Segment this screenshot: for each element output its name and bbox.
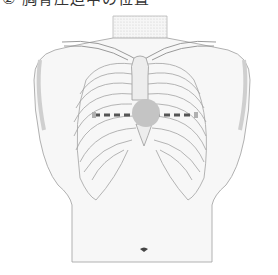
nipple-right-marker [194, 112, 198, 118]
compression-point-marker [132, 99, 160, 127]
torso-illustration [0, 0, 278, 275]
nipple-left-marker [92, 112, 96, 118]
